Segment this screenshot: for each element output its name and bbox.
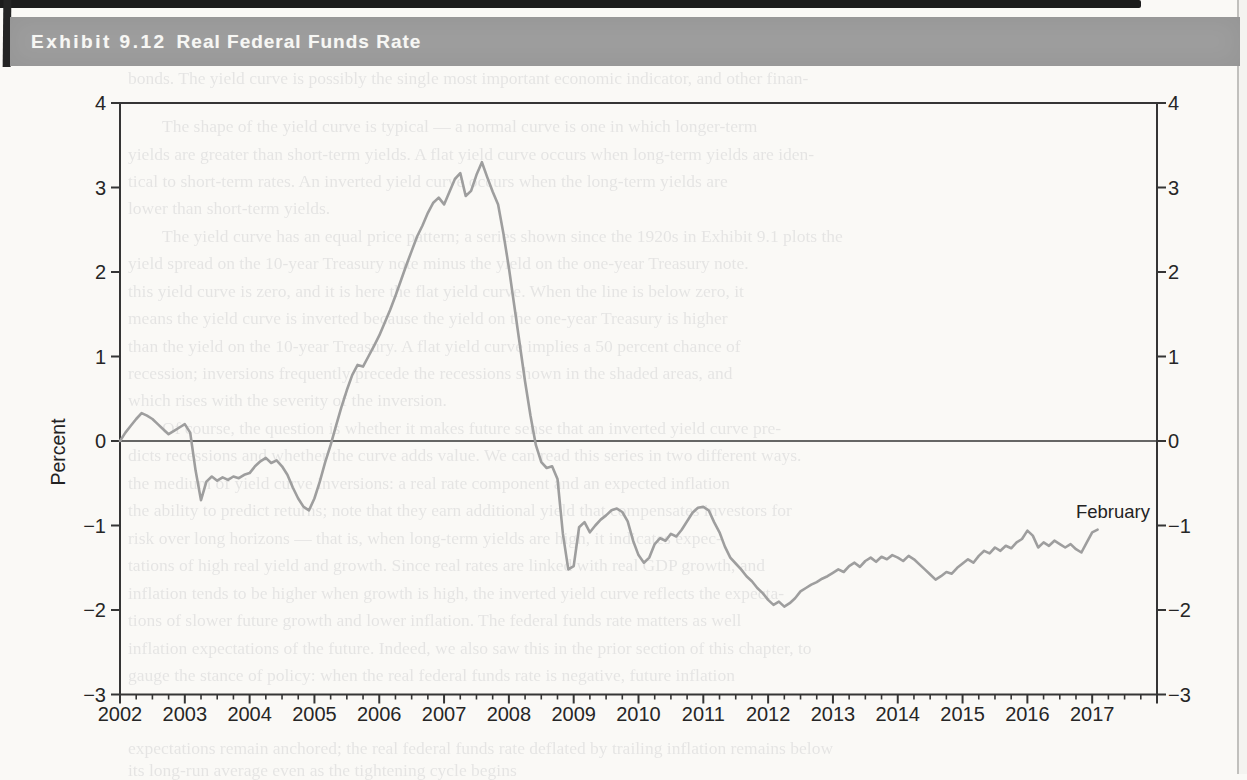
x-tick-label: 2016 [995,704,1059,724]
y-tick-label-left: 1 [60,347,106,367]
y-tick-label-right: 0 [1168,431,1220,451]
y-tick-label-right: −3 [1168,685,1220,705]
x-tick-label: 2015 [931,704,995,724]
y-tick-label-right: 3 [1168,178,1220,198]
y-tick-label-right: 4 [1168,93,1220,113]
y-axis-title: Percent [47,418,70,485]
x-tick-label: 2009 [542,704,606,724]
x-tick-label: 2014 [866,704,930,724]
x-tick-label: 2012 [736,704,800,724]
x-tick-label: 2010 [607,704,671,724]
x-tick-label: 2003 [153,704,217,724]
x-tick-label: 2013 [801,704,865,724]
y-tick-label-right: −2 [1168,600,1220,620]
x-tick-label: 2007 [412,704,476,724]
y-tick-label-right: 2 [1168,262,1220,282]
y-tick-label-left: 4 [60,93,106,113]
y-tick-label-left: 2 [60,262,106,282]
x-tick-label: 2004 [218,704,282,724]
y-tick-label-right: −1 [1168,516,1220,536]
y-tick-label-left: −3 [60,685,106,705]
february-annotation: February [1056,501,1150,523]
y-tick-label-left: −1 [60,516,106,536]
plot-frame [120,103,1157,695]
x-tick-label: 2008 [477,704,541,724]
y-tick-label-left: −2 [60,600,106,620]
x-tick-label: 2011 [671,704,735,724]
x-tick-label: 2005 [282,704,346,724]
y-tick-label-left: 3 [60,178,106,198]
y-tick-label-right: 1 [1168,347,1220,367]
real-ffr-line [120,162,1098,606]
x-tick-label: 2002 [88,704,152,724]
x-tick-label: 2017 [1060,704,1124,724]
x-tick-label: 2006 [347,704,411,724]
